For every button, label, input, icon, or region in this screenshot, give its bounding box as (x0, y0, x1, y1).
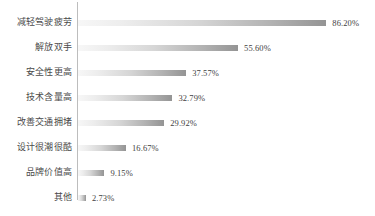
category-label: 其他 (0, 192, 72, 203)
category-label: 设计很潮很酷 (0, 142, 72, 153)
bar-and-value: 16.67% (78, 143, 159, 153)
bar-value-label: 32.79% (178, 93, 205, 103)
bar-and-value: 55.60% (78, 43, 271, 53)
category-label: 改善交通拥堵 (0, 117, 72, 128)
bar-and-value: 86.20% (78, 18, 359, 28)
category-label: 减轻驾驶疲劳 (0, 17, 72, 28)
bar-and-value: 37.57% (78, 68, 219, 78)
bar-and-value: 9.15% (78, 168, 133, 178)
bar-value-label: 29.92% (170, 118, 197, 128)
bar (78, 20, 326, 26)
bar-and-value: 32.79% (78, 93, 205, 103)
bar-row: 品牌价值高9.15% (0, 160, 375, 185)
bar-row: 设计很潮很酷16.67% (0, 135, 375, 160)
category-label: 品牌价值高 (0, 167, 72, 178)
bar (78, 70, 186, 76)
bar-value-label: 37.57% (192, 68, 219, 78)
category-label: 安全性更高 (0, 67, 72, 78)
bar-rows-container: 减轻驾驶疲劳86.20%解放双手55.60%安全性更高37.57%技术含量高32… (0, 0, 375, 216)
bar-row: 安全性更高37.57% (0, 60, 375, 85)
bar-chart: 减轻驾驶疲劳86.20%解放双手55.60%安全性更高37.57%技术含量高32… (0, 0, 375, 216)
bar-value-label: 2.73% (92, 193, 114, 203)
bar (78, 145, 126, 151)
bar-value-label: 55.60% (244, 43, 271, 53)
bar-value-label: 9.15% (110, 168, 132, 178)
bar-row: 解放双手55.60% (0, 35, 375, 60)
bar-value-label: 86.20% (332, 18, 359, 28)
bar (78, 195, 86, 201)
bar (78, 45, 238, 51)
bar-row: 改善交通拥堵29.92% (0, 110, 375, 135)
bar (78, 95, 172, 101)
bar (78, 120, 164, 126)
bar-and-value: 29.92% (78, 118, 197, 128)
category-label: 解放双手 (0, 42, 72, 53)
bar-and-value: 2.73% (78, 193, 114, 203)
category-label: 技术含量高 (0, 92, 72, 103)
bar-row: 减轻驾驶疲劳86.20% (0, 10, 375, 35)
bar-row: 其他2.73% (0, 185, 375, 210)
bar-value-label: 16.67% (132, 143, 159, 153)
bar-row: 技术含量高32.79% (0, 85, 375, 110)
bar (78, 170, 104, 176)
